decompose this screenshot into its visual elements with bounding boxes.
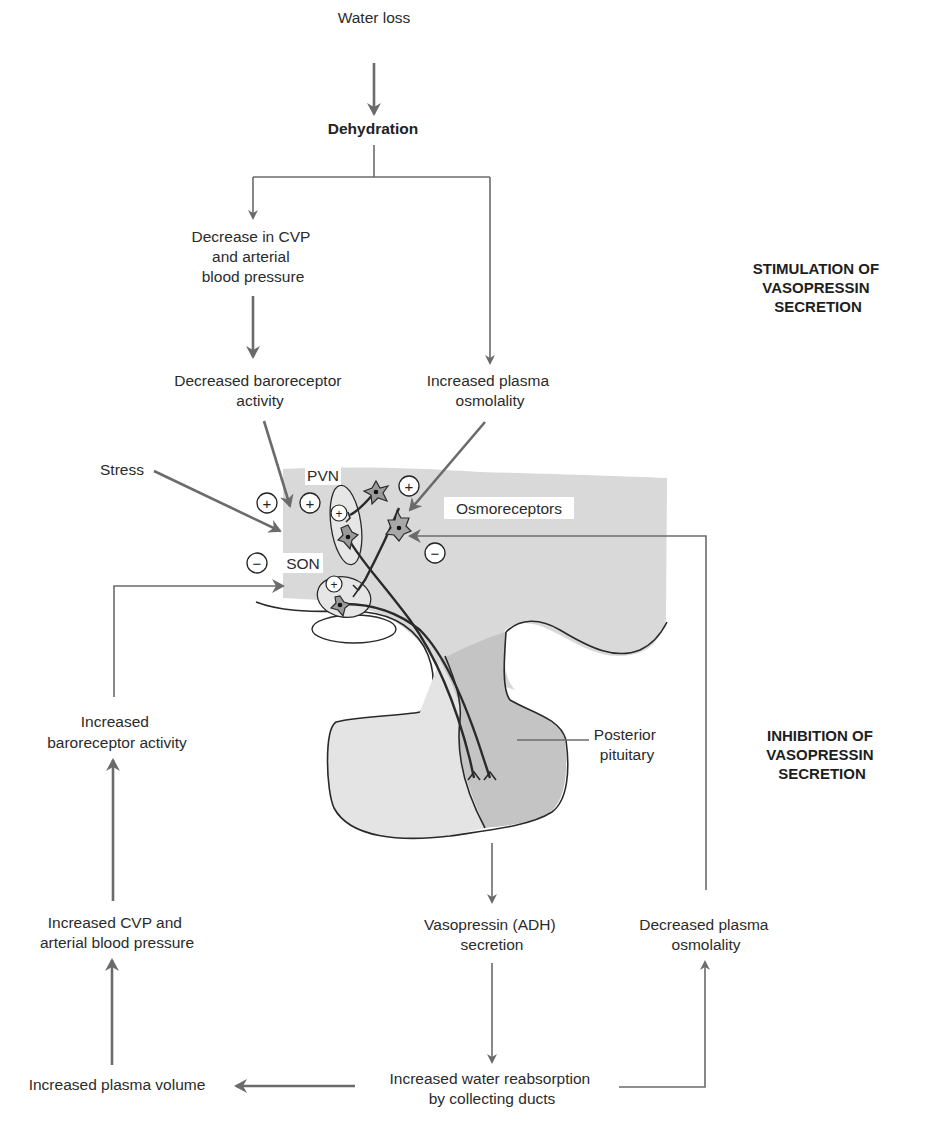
node-increased-osmolality: Increased plasma osmolality	[427, 372, 554, 409]
minus-sign-osmolality: −	[425, 543, 445, 563]
arrow-reabsorption-decreased-osmolality	[619, 962, 705, 1087]
plus-sign-pvn-input: +	[331, 505, 347, 521]
node-dehydration: Dehydration	[328, 120, 418, 137]
heading-stimulation: STIMULATION OF VASOPRESSIN SECRETION	[753, 260, 884, 315]
node-stress: Stress	[100, 461, 144, 478]
optic-chiasm	[312, 615, 396, 643]
svg-text:+: +	[306, 495, 315, 512]
svg-text:+: +	[335, 507, 342, 521]
svg-text:−: −	[253, 555, 262, 572]
son-label: SON	[286, 555, 320, 572]
vasopressin-regulation-diagram: + + + + − − + PVN SON Osmoreceptors Post…	[0, 0, 932, 1134]
osmoreceptors-label: Osmoreceptors	[456, 500, 562, 517]
svg-text:+: +	[263, 495, 272, 512]
node-decreased-osmolality: Decreased plasma osmolality	[639, 916, 773, 953]
pvn-label: PVN	[307, 467, 339, 484]
node-decrease-cvp: Decrease in CVP and arterial blood press…	[192, 228, 315, 285]
node-water-loss: Water loss	[338, 9, 411, 26]
node-increased-cvp: Increased CVP and arterial blood pressur…	[40, 914, 194, 951]
plus-sign-baroreceptor: +	[300, 493, 320, 513]
plus-sign-stress: +	[257, 493, 277, 513]
svg-text:−: −	[431, 545, 440, 562]
plus-sign-son-input: +	[326, 576, 342, 592]
node-water-reabsorption: Increased water reabsorption by collecti…	[389, 1070, 594, 1107]
pituitary	[328, 632, 568, 838]
node-increased-baroreceptor: Increased baroreceptor activity	[47, 713, 187, 751]
node-decreased-baroreceptor: Decreased baroreceptor activity	[174, 372, 345, 409]
node-increased-plasma-volume: Increased plasma volume	[29, 1076, 206, 1093]
heading-inhibition: INHIBITION OF VASOPRESSIN SECRETION	[766, 727, 877, 782]
svg-text:+: +	[405, 478, 414, 495]
node-vasopressin-secretion: Vasopressin (ADH) secretion	[424, 916, 560, 953]
svg-text:+: +	[330, 578, 337, 592]
plus-sign-osmolality: +	[399, 476, 419, 496]
minus-sign-baroreceptor: −	[247, 553, 267, 573]
posterior-pituitary-label: Posterior pituitary	[594, 726, 660, 763]
